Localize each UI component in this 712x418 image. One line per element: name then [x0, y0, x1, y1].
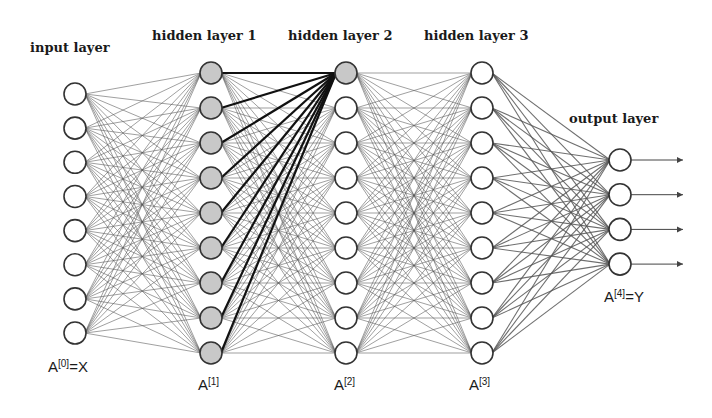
hidden3-title: hidden layer 3	[424, 28, 528, 43]
output-node	[609, 218, 631, 240]
edge	[85, 265, 201, 353]
output-node	[609, 184, 631, 206]
input-node	[64, 151, 86, 173]
input-variable-label: A[0]=X	[48, 358, 88, 375]
hidden1-node	[200, 237, 222, 259]
edge	[492, 229, 610, 353]
hidden3-node	[471, 132, 493, 154]
output-variable-label: A[4]=Y	[604, 288, 644, 305]
hidden1-node	[200, 272, 222, 294]
hidden3-variable-label: A[3]	[469, 376, 490, 393]
edge	[492, 143, 610, 160]
edge	[85, 333, 201, 353]
input-node	[64, 220, 86, 242]
hidden2-node	[335, 342, 357, 364]
output-title: output layer	[569, 111, 658, 126]
output-arrows	[631, 160, 683, 264]
hidden3-node	[471, 237, 493, 259]
neural-network-diagram: input layerhidden layer 1hidden layer 2h…	[0, 0, 712, 418]
edge	[492, 160, 610, 178]
hidden3-node	[471, 342, 493, 364]
output-node	[609, 253, 631, 275]
hidden1-node	[200, 97, 222, 119]
edge	[85, 73, 201, 196]
layer-variable-labels: A[0]=XA[1]A[2]A[3]A[4]=Y	[48, 288, 644, 393]
hidden2-node	[335, 307, 357, 329]
edge	[85, 73, 201, 128]
hidden3-node	[471, 97, 493, 119]
hidden1-node	[200, 167, 222, 189]
input-node	[64, 322, 86, 344]
edge	[85, 73, 201, 94]
hidden2-node	[335, 237, 357, 259]
hidden3-node	[471, 272, 493, 294]
edge	[492, 264, 610, 353]
edge	[492, 160, 610, 318]
input-title: input layer	[30, 40, 110, 55]
hidden2-node	[335, 62, 357, 84]
input-node	[64, 117, 86, 139]
hidden1-node	[200, 132, 222, 154]
hidden3-node	[471, 202, 493, 224]
hidden1-node	[200, 62, 222, 84]
input-node	[64, 185, 86, 207]
input-node	[64, 83, 86, 105]
hidden2-node	[335, 167, 357, 189]
hidden2-node	[335, 202, 357, 224]
hidden2-node	[335, 272, 357, 294]
hidden1-node	[200, 307, 222, 329]
hidden2-title: hidden layer 2	[288, 28, 392, 43]
input-node	[64, 288, 86, 310]
output-node	[609, 149, 631, 171]
hidden3-node	[471, 307, 493, 329]
edge	[492, 195, 610, 353]
hidden3-node	[471, 62, 493, 84]
hidden1-node	[200, 342, 222, 364]
hidden1-title: hidden layer 1	[152, 28, 256, 43]
hidden2-variable-label: A[2]	[334, 376, 355, 393]
hidden2-node	[335, 97, 357, 119]
hidden3-node	[471, 167, 493, 189]
hidden2-node	[335, 132, 357, 154]
hidden1-node	[200, 202, 222, 224]
hidden1-variable-label: A[1]	[198, 376, 219, 393]
input-node	[64, 254, 86, 276]
